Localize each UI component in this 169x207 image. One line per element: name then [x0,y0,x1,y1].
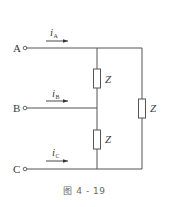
impedance-bc-label: Z [105,134,111,145]
terminal-a-label: A [13,43,21,54]
impedance-ac [139,99,146,118]
current-ia-label: iA [50,27,58,39]
impedance-ac-label: Z [150,103,156,114]
terminal-b-label: B [13,103,20,114]
current-ib-label: iB [52,88,60,100]
terminal-a-icon [23,46,27,50]
current-ic-label: iC [52,147,60,159]
terminal-b-icon [23,106,27,110]
terminal-c-icon [23,167,27,171]
impedance-bc [94,130,101,149]
figure-caption: 图 4 - 19 [0,184,169,197]
circuit-diagram [0,0,169,207]
impedance-ab-label: Z [105,74,111,85]
terminal-c-label: C [13,164,20,175]
impedance-ab [94,69,101,88]
